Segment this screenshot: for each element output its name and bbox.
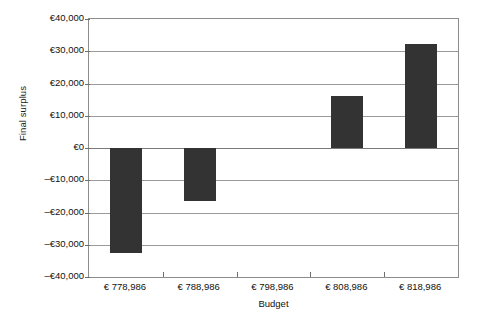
y-tick-mark [85,245,90,246]
bar-chart: Final surplus €40,000€30,000€20,000€10,0… [0,0,480,326]
x-tick-label: € 818,986 [399,281,441,292]
y-tick-mark [85,84,90,85]
y-tick-label: €30,000 [20,45,84,55]
gridline [89,116,458,117]
bar [110,148,142,253]
y-tick-mark [85,180,90,181]
y-tick-label: €10,000 [20,110,84,120]
x-tick-mark [310,272,311,277]
x-tick-label: € 798,986 [251,281,293,292]
gridline [89,51,458,52]
bar [184,148,216,201]
gridline [89,245,458,246]
y-tick-mark [85,148,90,149]
y-tick-label: €40,000 [20,13,84,23]
x-tick-mark [237,272,238,277]
y-tick-label: €20,000 [20,78,84,88]
y-tick-label: €0 [20,142,84,152]
plot-area [88,18,459,278]
x-axis-tick-labels: € 778,986€ 788,986€ 798,986€ 808,986€ 81… [88,281,459,295]
y-tick-mark [85,116,90,117]
gridline [89,213,458,214]
bar [331,96,363,148]
x-tick-label: € 778,986 [104,281,146,292]
y-tick-mark [85,277,90,278]
x-tick-mark [384,272,385,277]
y-axis-tick-labels: €40,000€30,000€20,000€10,000€0–€10,000–€… [18,0,84,326]
y-tick-label: –€30,000 [20,239,84,249]
zero-line [89,148,458,149]
y-tick-label: –€40,000 [20,271,84,281]
x-tick-label: € 788,986 [178,281,220,292]
gridline [89,84,458,85]
x-tick-mark [163,272,164,277]
gridline [89,180,458,181]
y-tick-mark [85,51,90,52]
y-tick-mark [85,213,90,214]
bar [405,44,437,148]
y-tick-label: –€10,000 [20,174,84,184]
x-tick-label: € 808,986 [325,281,367,292]
x-axis-title: Budget [88,298,459,309]
y-tick-label: –€20,000 [20,207,84,217]
y-tick-mark [85,19,90,20]
